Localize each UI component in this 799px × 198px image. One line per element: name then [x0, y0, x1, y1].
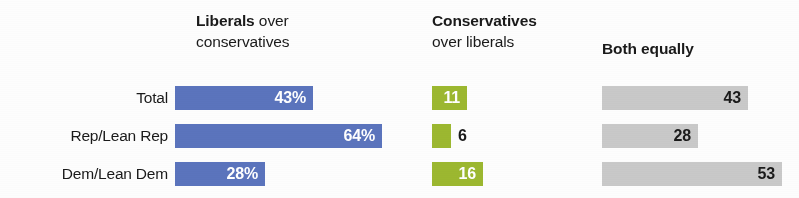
bar-both-rep: 28 — [602, 124, 698, 148]
bar-value-both-dem: 53 — [758, 162, 775, 186]
column-header-both-equally: Both equally — [602, 38, 694, 59]
bar-conservatives-dem: 16 — [432, 162, 483, 186]
bar-track-both-rep: 28 — [602, 124, 698, 148]
column-header-conservatives-over-liberals: Conservatives over liberals — [432, 10, 537, 52]
chart-row-dem-lean-dem: Dem/Lean Dem 28% 16 53 — [0, 162, 799, 186]
chart-row-total: Total 43% 11 43 — [0, 86, 799, 110]
bar-both-total: 43 — [602, 86, 748, 110]
column-header-liberals-line1: Liberals over — [196, 10, 289, 31]
bar-value-conservatives-rep: 6 — [458, 124, 467, 148]
bar-track-conservatives-total: 11 — [432, 86, 467, 110]
chart-row-rep-lean-rep: Rep/Lean Rep 64% 6 28 — [0, 124, 799, 148]
bar-track-liberals-total: 43% — [175, 86, 313, 110]
bar-value-liberals-total: 43% — [275, 86, 306, 110]
row-label-dem-lean-dem: Dem/Lean Dem — [62, 163, 168, 185]
column-header-both-strong: Both equally — [602, 38, 694, 59]
bar-value-conservatives-dem: 16 — [459, 162, 476, 186]
column-header-liberals-line2: conservatives — [196, 31, 289, 52]
bar-track-both-total: 43 — [602, 86, 748, 110]
row-label-total: Total — [136, 87, 168, 109]
bar-liberals-total: 43% — [175, 86, 313, 110]
grouped-bar-chart: Liberals over conservatives Conservative… — [0, 0, 799, 198]
bar-value-liberals-rep: 64% — [344, 124, 375, 148]
bar-value-both-total: 43 — [724, 86, 741, 110]
bar-track-both-dem: 53 — [602, 162, 782, 186]
bar-conservatives-total: 11 — [432, 86, 467, 110]
column-header-conservatives-line2: over liberals — [432, 31, 537, 52]
bar-track-conservatives-rep: 6 — [432, 124, 451, 148]
bar-value-conservatives-total: 11 — [443, 86, 460, 110]
column-header-conservatives-strong: Conservatives — [432, 10, 537, 31]
column-header-liberals-light: over — [255, 12, 289, 29]
bar-value-both-rep: 28 — [674, 124, 691, 148]
bar-track-conservatives-dem: 16 — [432, 162, 483, 186]
bar-both-dem: 53 — [602, 162, 782, 186]
column-header-liberals-strong: Liberals — [196, 12, 255, 29]
row-label-rep-lean-rep: Rep/Lean Rep — [70, 125, 168, 147]
bar-liberals-rep: 64% — [175, 124, 382, 148]
bar-liberals-dem: 28% — [175, 162, 265, 186]
bar-track-liberals-dem: 28% — [175, 162, 265, 186]
bar-value-liberals-dem: 28% — [227, 162, 258, 186]
bar-track-liberals-rep: 64% — [175, 124, 382, 148]
bar-conservatives-rep: 6 — [432, 124, 451, 148]
column-header-liberals-over-conservatives: Liberals over conservatives — [196, 10, 289, 52]
